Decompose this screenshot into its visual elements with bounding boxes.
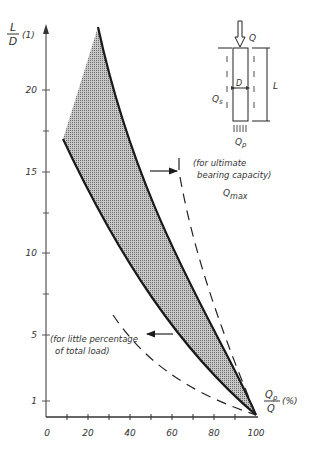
svg-text:(1): (1)	[22, 30, 35, 40]
pile-load-label: Q	[249, 33, 256, 43]
y-tick-20: 20	[26, 85, 38, 95]
svg-text:L: L	[10, 21, 16, 34]
shaft-resistance-label: Qs	[212, 94, 223, 106]
y-tick-5: 5	[31, 330, 37, 340]
y-axis-arrow-icon	[43, 24, 49, 34]
svg-text:(%): (%)	[282, 396, 298, 406]
pile-diameter-label: D	[236, 79, 242, 88]
y-tick-10: 10	[26, 248, 38, 258]
qmax-label: Qmax	[223, 188, 248, 201]
ultimate-capacity-label-line1: (for ultimate	[193, 158, 246, 168]
tip-resistance-label: Qp	[235, 137, 247, 149]
tip-bearing-arrows-icon	[234, 125, 246, 132]
x-tick-20: 20	[82, 428, 94, 438]
pile-schematic	[218, 21, 270, 132]
y-tick-1: 1	[31, 396, 37, 406]
x-tick-40: 40	[124, 428, 136, 438]
y-tick-15: 15	[26, 167, 38, 177]
load-arrow-icon	[235, 21, 245, 47]
svg-text:Qp: Qp	[265, 389, 278, 402]
little-percentage-label-line1: (for little percentage	[50, 334, 138, 344]
x-tick-60: 60	[166, 428, 178, 438]
svg-text:Q: Q	[267, 403, 275, 414]
x-tick-0: 0	[44, 428, 50, 438]
y-axis-title: L D (1)	[7, 21, 35, 48]
pile-load-distribution-diagram: 20 15 10 5 1 0 20 40 60 80 100 L D (1) Q…	[0, 0, 313, 453]
svg-text:D: D	[9, 35, 17, 48]
x-axis-title: Qp Q (%)	[264, 389, 298, 414]
pile-length-label: L	[273, 81, 278, 91]
little-percentage-label-line2: of total load)	[55, 346, 110, 356]
ultimate-capacity-label-line2: bearing capacity)	[197, 170, 271, 180]
x-tick-80: 80	[208, 428, 220, 438]
x-tick-100: 100	[247, 428, 264, 438]
